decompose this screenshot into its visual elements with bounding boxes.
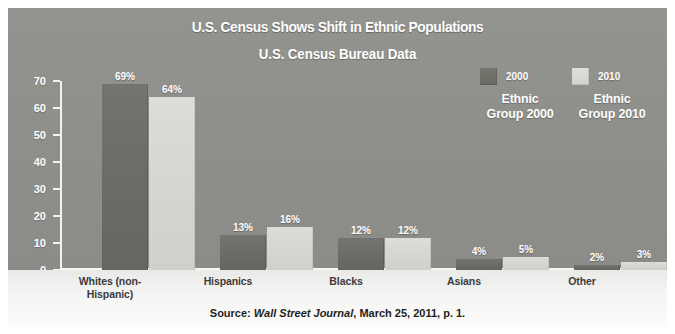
category-label-line: Hispanic) <box>50 288 170 301</box>
category-label: Blacks <box>286 275 406 288</box>
bar: 12% <box>385 238 431 270</box>
y-axis-tick-mark <box>53 80 60 82</box>
bar-value-label: 16% <box>280 214 300 225</box>
bar: 16% <box>267 227 313 270</box>
y-axis-tick-mark <box>53 242 60 244</box>
bar-groups: 69%64%13%16%12%12%4%5%2%3% <box>62 81 656 270</box>
y-axis-tick-mark <box>53 134 60 136</box>
chart-panel: U.S. Census Shows Shift in Ethnic Popula… <box>8 8 667 326</box>
y-axis-tick-label: 30 <box>24 183 46 195</box>
bar-group: 13%16% <box>220 81 313 270</box>
bar-value-label: 12% <box>398 225 418 236</box>
source-prefix: Source: <box>210 307 254 319</box>
bar-group: 4%5% <box>456 81 549 270</box>
y-axis-tick-label: 10 <box>24 237 46 249</box>
y-axis-tick-40: 40 <box>24 156 60 168</box>
bar-value-label: 3% <box>637 249 651 260</box>
source-publication: Wall Street Journal <box>254 307 353 319</box>
y-axis-tick-30: 30 <box>24 183 60 195</box>
y-axis-tick-label: 70 <box>24 75 46 87</box>
y-axis-tick-60: 60 <box>24 102 60 114</box>
category-label: Other <box>522 275 642 288</box>
bar: 64% <box>149 97 195 270</box>
y-axis-tick-label: 60 <box>24 102 46 114</box>
y-axis-tick-mark <box>53 188 60 190</box>
bar-value-label: 69% <box>115 71 135 82</box>
bar-value-label: 13% <box>233 222 253 233</box>
bottom-band: Whites (non-Hispanic)HispanicsBlacksAsia… <box>8 270 667 326</box>
y-axis-tick-10: 10 <box>24 237 60 249</box>
bar: 5% <box>503 257 549 271</box>
y-axis-tick-label: 40 <box>24 156 46 168</box>
y-axis-tick-50: 50 <box>24 129 60 141</box>
category-label-line: Asians <box>404 275 524 288</box>
bar-value-label: 5% <box>519 244 533 255</box>
bar: 69% <box>102 84 148 270</box>
source-suffix: , March 25, 2011, p. 1. <box>353 307 465 319</box>
category-label-line: Whites (non- <box>50 275 170 288</box>
bar: 12% <box>338 238 384 270</box>
bar-group: 2%3% <box>574 81 667 270</box>
y-axis-tick-70: 70 <box>24 75 60 87</box>
bar-value-label: 12% <box>351 225 371 236</box>
y-axis-tick-20: 20 <box>24 210 60 222</box>
bar: 13% <box>220 235 266 270</box>
bar: 3% <box>621 262 667 270</box>
bar: 4% <box>456 259 502 270</box>
bar-value-label: 2% <box>590 252 604 263</box>
category-label-line: Blacks <box>286 275 406 288</box>
bar-group: 69%64% <box>102 81 195 270</box>
bar-group: 12%12% <box>338 81 431 270</box>
category-label: Whites (non-Hispanic) <box>50 275 170 300</box>
chart-figure: U.S. Census Shows Shift in Ethnic Popula… <box>0 0 675 334</box>
y-axis-tick-mark <box>53 161 60 163</box>
y-axis-tick-mark <box>53 107 60 109</box>
category-label-line: Hispanics <box>168 275 288 288</box>
chart-subtitle: U.S. Census Bureau Data <box>24 46 650 62</box>
bar-value-label: 64% <box>162 84 182 95</box>
y-axis-tick-mark <box>53 215 60 217</box>
y-axis-tick-label: 20 <box>24 210 46 222</box>
y-axis-tick-label: 50 <box>24 129 46 141</box>
category-label: Hispanics <box>168 275 288 288</box>
chart-title: U.S. Census Shows Shift in Ethnic Popula… <box>34 18 640 35</box>
bar-value-label: 4% <box>472 246 486 257</box>
category-label: Asians <box>404 275 524 288</box>
category-label-line: Other <box>522 275 642 288</box>
source-note: Source: Wall Street Journal, March 25, 2… <box>8 307 667 319</box>
